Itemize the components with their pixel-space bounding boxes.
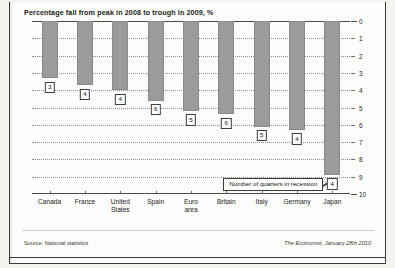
y-axis-label: 7 — [359, 139, 363, 146]
chart-card: Percentage fall from peak in 2008 to tro… — [9, 2, 386, 264]
y-axis-label: 10 — [359, 191, 366, 198]
category-label-united-states: United States — [111, 198, 130, 214]
y-axis-label: 5 — [359, 104, 363, 111]
page-edge-shadow — [10, 2, 13, 263]
y-axis-label: 0 — [359, 18, 363, 25]
quarters-box-canada: 3 — [44, 82, 54, 93]
quarters-box-italy: 5 — [256, 130, 266, 141]
y-axis-label: 9 — [359, 173, 363, 180]
category-label-britain: Britain — [217, 198, 236, 206]
category-label-euro-area: Euro area — [184, 198, 198, 214]
plot-area: 344656544Number of quarters in recession — [32, 21, 350, 194]
y-axis-tick — [351, 194, 357, 195]
y-axis-label: 4 — [359, 87, 363, 94]
y-axis-tick — [351, 21, 357, 22]
credit-note: The Economist, January 28th 2010 — [284, 240, 371, 246]
x-tick — [297, 191, 298, 194]
y-axis-tick — [351, 159, 355, 160]
quarters-box-spain: 6 — [150, 104, 160, 115]
quarters-box-france: 4 — [80, 89, 90, 100]
bar-euro-area — [183, 21, 199, 111]
category-label-spain: Spain — [147, 198, 164, 206]
y-axis-tick — [351, 125, 355, 126]
gridline — [32, 142, 350, 143]
y-axis-tick — [351, 142, 355, 143]
category-label-japan: Japan — [323, 198, 341, 206]
y-axis-right: 012345678910 — [351, 21, 377, 194]
quarters-box-japan: 4 — [327, 178, 337, 189]
bar-canada — [42, 21, 58, 78]
card-bottom-rule — [10, 257, 385, 258]
y-axis-tick — [351, 73, 355, 74]
y-axis-tick — [351, 38, 355, 39]
x-tick — [50, 191, 51, 194]
quarters-box-euro-area: 5 — [186, 114, 196, 125]
footer-divider — [22, 230, 374, 231]
y-axis-label: 2 — [359, 52, 363, 59]
y-axis-label: 3 — [359, 69, 363, 76]
y-axis-tick — [351, 108, 355, 109]
chart-card-inner: Percentage fall from peak in 2008 to tro… — [10, 2, 385, 263]
x-tick — [226, 191, 227, 194]
x-tick — [262, 191, 263, 194]
annotation-arrow-icon — [323, 181, 328, 187]
category-label-italy: Italy — [256, 198, 268, 206]
y-axis-tick — [351, 56, 355, 57]
x-tick — [120, 191, 121, 194]
quarters-box-germany: 4 — [292, 133, 302, 144]
x-axis-categories: CanadaFranceUnited StatesSpainEuro areaB… — [32, 198, 350, 222]
y-axis-label: 6 — [359, 121, 363, 128]
category-label-germany: Germany — [283, 198, 310, 206]
x-tick — [85, 191, 86, 194]
bar-germany — [289, 21, 305, 130]
quarters-box-britain: 6 — [221, 118, 231, 129]
source-note: Source: National statistics — [24, 240, 88, 246]
y-axis-tick — [351, 90, 355, 91]
bar-britain — [218, 21, 234, 114]
y-axis-tick — [351, 177, 355, 178]
bar-japan — [324, 21, 340, 175]
y-axis-label: 8 — [359, 156, 363, 163]
screenshot-page: Percentage fall from peak in 2008 to tro… — [0, 0, 395, 268]
quarters-box-united-states: 4 — [115, 94, 125, 105]
gridline — [32, 159, 350, 160]
x-tick — [156, 191, 157, 194]
bar-italy — [254, 21, 270, 127]
x-tick — [191, 191, 192, 194]
chart-title: Percentage fall from peak in 2008 to tro… — [24, 8, 214, 17]
x-tick — [332, 191, 333, 194]
category-label-canada: Canada — [38, 198, 61, 206]
category-label-france: France — [75, 198, 96, 206]
bar-united-states — [112, 21, 128, 90]
annotation-callout: Number of quarters in recession — [223, 178, 323, 191]
bar-france — [77, 21, 93, 85]
y-axis-label: 1 — [359, 35, 363, 42]
bar-spain — [148, 21, 164, 101]
